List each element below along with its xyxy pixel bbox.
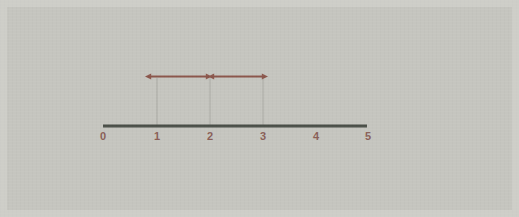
tick-label-2: 2 [202,130,218,142]
tick-label-1: 1 [149,130,165,142]
tick-label-3: 3 [255,130,271,142]
tick-label-5: 5 [360,130,376,142]
tick-label-0: 0 [95,130,111,142]
connector-lines [157,78,263,126]
tick-label-4: 4 [308,130,324,142]
figure-canvas: 0 1 2 3 4 5 [0,0,519,217]
number-line-diagram [0,0,519,217]
